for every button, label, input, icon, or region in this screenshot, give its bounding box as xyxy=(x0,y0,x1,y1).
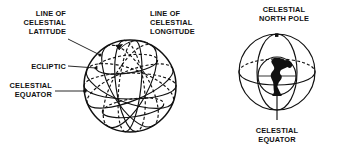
label-line-of-celestial-longitude-l1: LINE OF xyxy=(150,9,181,18)
label-celestial-north-pole-l2: NORTH POLE xyxy=(259,14,309,23)
label-line-of-celestial-longitude-l2: CELESTIAL xyxy=(150,18,193,27)
label-celestial-equator-left-l2: EQUATOR xyxy=(15,90,53,99)
label-celestial-equator-right-l2: EQUATOR xyxy=(258,135,296,144)
diagram-canvas: LINE OF CELESTIAL LATITUDE ECLIPTIC CELE… xyxy=(0,0,346,151)
label-celestial-north-pole-l1: CELESTIAL xyxy=(263,5,306,14)
celestial-north-pole-marker xyxy=(275,34,278,37)
label-line-of-celestial-latitude-l1: LINE OF xyxy=(36,9,67,18)
label-line-of-celestial-longitude-l3: LONGITUDE xyxy=(150,27,195,36)
label-celestial-equator-right-l1: CELESTIAL xyxy=(256,126,299,135)
celestial-sphere-figure: LINE OF CELESTIAL LATITUDE ECLIPTIC CELE… xyxy=(0,0,346,151)
label-line-of-celestial-latitude-l2: CELESTIAL xyxy=(24,18,67,27)
label-celestial-equator-left-l1: CELESTIAL xyxy=(10,81,53,90)
label-ecliptic: ECLIPTIC xyxy=(31,62,66,71)
label-line-of-celestial-latitude-l3: LATITUDE xyxy=(29,27,66,36)
